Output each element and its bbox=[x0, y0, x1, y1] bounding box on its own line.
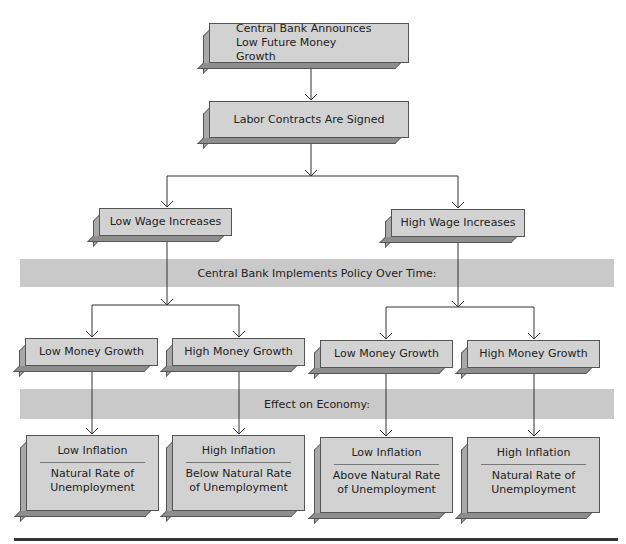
outcome-box-4: High Inflation Natural Rate of Unemploym… bbox=[467, 437, 600, 513]
outcome-box-1: Low Inflation Natural Rate of Unemployme… bbox=[26, 435, 159, 511]
contracts-label: Labor Contracts Are Signed bbox=[234, 113, 385, 127]
money-growth-label: High Money Growth bbox=[479, 347, 588, 361]
money-growth-label: Low Money Growth bbox=[39, 345, 144, 359]
contracts-box: Labor Contracts Are Signed bbox=[209, 101, 409, 138]
outcome-box-2: High Inflation Below Natural Rate of Une… bbox=[172, 435, 305, 511]
money-growth-label: Low Money Growth bbox=[334, 347, 439, 361]
high-wage-label: High Wage Increases bbox=[400, 216, 515, 230]
money-growth-box-3: Low Money Growth bbox=[320, 340, 453, 368]
inflation-label: High Inflation bbox=[481, 446, 586, 465]
unemployment-label: Above Natural Rate of Unemployment bbox=[331, 469, 442, 497]
low-wage-box: Low Wage Increases bbox=[99, 208, 232, 236]
money-growth-box-4: High Money Growth bbox=[467, 340, 600, 368]
unemployment-label: Below Natural Rate of Unemployment bbox=[183, 467, 294, 495]
inflation-label: High Inflation bbox=[186, 444, 291, 463]
bottom-rule bbox=[14, 538, 618, 541]
money-growth-box-1: Low Money Growth bbox=[25, 338, 158, 366]
high-wage-box: High Wage Increases bbox=[391, 209, 525, 237]
inflation-label: Low Inflation bbox=[334, 446, 439, 465]
inflation-label: Low Inflation bbox=[40, 444, 145, 463]
announcement-label: Central Bank Announces Low Future Money … bbox=[236, 22, 376, 64]
outcome-box-3: Low Inflation Above Natural Rate of Unem… bbox=[320, 437, 453, 513]
money-growth-box-2: High Money Growth bbox=[172, 338, 305, 366]
unemployment-label: Natural Rate of Unemployment bbox=[37, 467, 148, 495]
unemployment-label: Natural Rate of Unemployment bbox=[478, 469, 589, 497]
money-growth-label: High Money Growth bbox=[184, 345, 293, 359]
announcement-box: Central Bank Announces Low Future Money … bbox=[209, 23, 409, 63]
low-wage-label: Low Wage Increases bbox=[110, 215, 222, 229]
